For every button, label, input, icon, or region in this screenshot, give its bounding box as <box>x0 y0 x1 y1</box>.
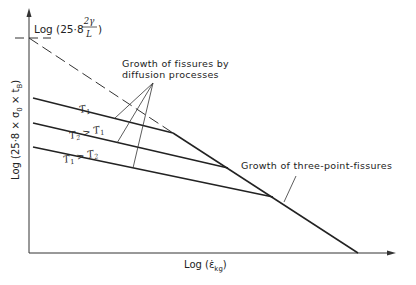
fissure-growth-diagram: Log (25·8 2γ L ) Growth of fissures by d… <box>0 0 416 285</box>
annotation-three-point: Growth of three-point-fissures <box>241 160 392 171</box>
svg-text:T2 > T1: T2 > T1 <box>68 123 105 143</box>
svg-text:Log (ε̇kg): Log (ε̇kg) <box>184 259 227 273</box>
leader-three-point <box>284 176 296 202</box>
svg-text:Log (25·8 × σ0 × tB): Log (25·8 × σ0 × tB) <box>10 80 24 180</box>
svg-text:): ) <box>98 23 102 35</box>
y-axis-label: Log (25·8 × σ0 × tB) <box>10 80 24 180</box>
leader-diffusion-3 <box>133 83 153 168</box>
annotation-diffusion-line2: diffusion processes <box>122 69 219 80</box>
svg-text:L: L <box>85 29 92 39</box>
svg-text:T1 > T2: T1 > T2 <box>62 147 99 167</box>
curve-t1-gt-t2 <box>33 147 273 197</box>
leader-diffusion-2 <box>117 83 153 143</box>
three-point-fissure-line <box>173 133 358 253</box>
x-axis-label: Log (ε̇kg) <box>184 259 227 273</box>
curve-label-t2-gt-t1: T2 > T1 <box>68 123 105 143</box>
x-axis-arrow <box>387 251 396 256</box>
curve-t2-gt-t1 <box>33 123 228 168</box>
curve-label-t1: T1 <box>78 102 91 117</box>
y-axis-arrow <box>27 8 32 17</box>
svg-text:Log (25·8: Log (25·8 <box>34 23 84 35</box>
intercept-label: Log (25·8 2γ L ) <box>34 16 102 39</box>
curve-label-t1-gt-t2: T1 > T2 <box>62 147 99 167</box>
svg-text:2γ: 2γ <box>83 16 95 26</box>
svg-text:T1: T1 <box>78 102 91 117</box>
annotation-diffusion-line1: Growth of fissures by <box>122 58 229 69</box>
leader-diffusion-1 <box>115 83 153 118</box>
